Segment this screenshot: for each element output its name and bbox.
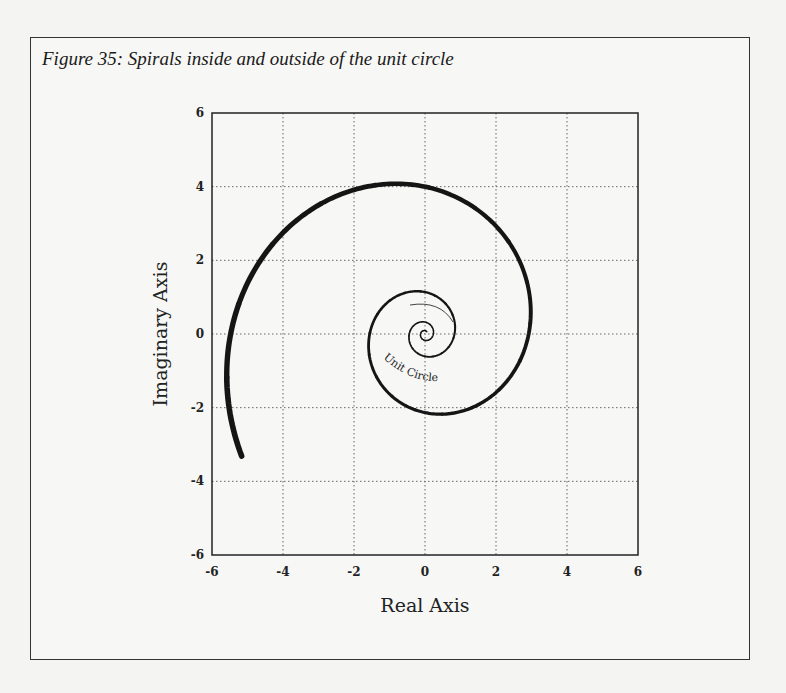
spiral-segment xyxy=(520,324,530,361)
y-tick-label: -2 xyxy=(191,401,204,415)
y-tick-label: -4 xyxy=(191,474,204,488)
spiral-segment xyxy=(454,327,456,338)
x-tick-label: -6 xyxy=(205,565,218,579)
spiral-segment xyxy=(499,361,520,390)
spiral-segment xyxy=(527,282,531,324)
spiral-segment xyxy=(421,291,435,295)
spiral-segment xyxy=(413,348,418,353)
spiral-segment xyxy=(429,188,475,208)
tick-labels: -6-4-20246-6-4-20246 xyxy=(191,106,643,579)
spiral-segment xyxy=(409,330,410,336)
spiral-segment xyxy=(446,304,453,315)
spiral-segment xyxy=(442,408,471,414)
spiral-segment xyxy=(449,338,454,347)
spiral-segment xyxy=(272,204,320,244)
y-tick-label: 2 xyxy=(196,253,204,267)
spiral-segment xyxy=(508,241,527,282)
y-tick-label: -6 xyxy=(191,548,204,562)
spiral-segment xyxy=(475,208,508,241)
grid-lines xyxy=(212,113,638,555)
spiral-segment xyxy=(377,377,392,396)
spiral-segment xyxy=(453,315,456,327)
spiral-segment xyxy=(405,291,421,293)
spiral-segment xyxy=(375,184,429,188)
x-tick-label: 4 xyxy=(563,565,571,579)
y-axis-label: Imaginary Axis xyxy=(149,262,171,407)
x-tick-label: -2 xyxy=(347,565,360,579)
spiral-segment xyxy=(369,333,370,355)
spiral-curve xyxy=(227,184,531,456)
spiral-segment xyxy=(377,301,389,315)
unit-circle-arc xyxy=(410,304,453,322)
spiral-segment xyxy=(369,355,376,377)
spiral-segment xyxy=(410,342,413,348)
spiral-segment xyxy=(239,244,273,304)
unit-circle-annotation: Unit Circle xyxy=(381,351,438,385)
y-tick-label: 0 xyxy=(196,327,204,341)
spiral-segment xyxy=(227,304,239,377)
y-tick-label: 4 xyxy=(196,180,204,194)
spiral-segment xyxy=(390,293,405,301)
x-axis-label: Real Axis xyxy=(380,594,469,616)
x-tick-label: 0 xyxy=(421,565,429,579)
spiral-segment xyxy=(418,353,425,356)
spiral-segment xyxy=(435,295,446,303)
spiral-chart: -6-4-20246-6-4-20246 Unit Circle Real Ax… xyxy=(0,0,786,693)
spiral-segment xyxy=(227,378,242,456)
spiral-segment xyxy=(321,185,376,204)
spiral-segment xyxy=(441,347,448,353)
x-tick-label: 6 xyxy=(634,565,642,579)
x-tick-label: 2 xyxy=(492,565,500,579)
spiral-segment xyxy=(472,390,499,408)
y-tick-label: 6 xyxy=(196,106,204,120)
spiral-segment xyxy=(370,314,377,333)
x-tick-label: -4 xyxy=(276,565,289,579)
spiral-segment xyxy=(415,410,443,415)
spiral-segment xyxy=(409,336,410,342)
spiral-segment xyxy=(392,396,415,409)
spiral-segment xyxy=(433,353,441,356)
